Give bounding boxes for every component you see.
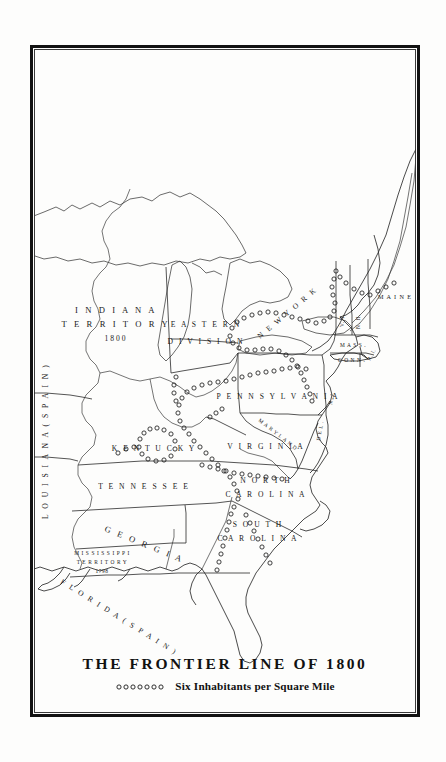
great-lakes-group xyxy=(34,192,352,361)
label-pennsylvania: P E N N S Y L V A N I A xyxy=(217,392,340,401)
boundary-eastern-division xyxy=(171,353,238,373)
label-connecticut: C O N N . xyxy=(338,357,365,363)
boundary-new-york-north xyxy=(322,261,336,355)
label-south-carolina-line2: C A R O L I N A xyxy=(218,534,299,543)
boundary-pennsylvania-south xyxy=(240,413,322,415)
outer-banks xyxy=(300,501,330,531)
label-virginia: V I R G I N I A xyxy=(227,442,304,451)
label-mississippi-territory-year: 1798 xyxy=(95,568,108,574)
boundary-pennsylvania-east xyxy=(322,355,326,415)
label-south-carolina-line1: S O U T H xyxy=(233,520,284,529)
label-florida: F L O R I D A ( S P A I N ) xyxy=(59,577,179,657)
label-rhode-island: R. I. xyxy=(366,348,377,362)
label-delaware: D E L . xyxy=(315,421,324,442)
florida-gulf-coast xyxy=(190,569,202,605)
figure-legend: Six Inhabitants per Square Mile xyxy=(34,680,416,692)
boundary-kentucky-tennessee xyxy=(78,461,194,465)
label-eastern-division-line2: D I V I S I O N xyxy=(168,337,245,346)
label-new-jersey: N. J. xyxy=(327,391,336,405)
potomac-river xyxy=(240,449,290,479)
label-eastern-division-line1: E A S T E R N xyxy=(171,320,241,329)
mississippi-river-group xyxy=(72,189,290,569)
lake-erie xyxy=(238,335,312,355)
boundary-georgia-west xyxy=(185,505,186,543)
label-massachusetts: M A S S . xyxy=(340,342,366,348)
figure-title: THE FRONTIER LINE OF 1800 xyxy=(34,655,416,673)
label-north-carolina-line1: N O R T H xyxy=(240,476,291,485)
label-kentucky: K E N T U C K Y xyxy=(112,444,197,453)
map-figure: L O U I S I A N A ( S P A I N ) I N D I … xyxy=(0,0,446,762)
ohio-river xyxy=(100,353,238,397)
boundary-tennessee-south xyxy=(72,501,232,511)
legend-circle-chain-icon xyxy=(115,681,171,691)
label-vermont: V. T. xyxy=(339,314,345,327)
st-lawrence-river-south xyxy=(350,173,412,331)
label-indiana-territory-line1: I N D I A N A xyxy=(75,305,157,315)
label-indiana-territory-line2: T E R R I T O R Y xyxy=(62,319,171,329)
boundary-kentucky-virginia xyxy=(206,417,246,435)
savannah-river xyxy=(202,497,232,569)
label-north-carolina-line2: C A R O L I N A xyxy=(226,490,307,499)
boundary-vermont-newhampshire xyxy=(350,265,352,335)
map-canvas: L O U I S I A N A ( S P A I N ) I N D I … xyxy=(34,49,416,713)
label-mississippi-territory-line1: M I S S I S S I P P I xyxy=(74,550,130,556)
label-new-hampshire: N. H. xyxy=(355,314,361,329)
gaspe-coast xyxy=(312,149,416,351)
label-maine: M A I N E xyxy=(378,293,412,300)
lake-superior xyxy=(34,192,246,266)
label-indiana-territory-year: 1800 xyxy=(104,334,127,343)
mississippi-river xyxy=(72,189,130,569)
lake-michigan xyxy=(158,261,192,361)
legend-label: Six Inhabitants per Square Mile xyxy=(175,680,334,692)
label-louisiana: L O U I S I A N A ( S P A I N ) xyxy=(41,363,50,519)
label-tennessee: T E N N E S S E E xyxy=(98,482,190,491)
figure-caption: THE FRONTIER LINE OF 1800 Six Inhabitant… xyxy=(34,655,416,692)
boundary-pennsylvania-west xyxy=(238,353,240,413)
mackinac-strait xyxy=(192,263,222,275)
label-mississippi-territory-line2: T E R R I T O R Y xyxy=(77,559,128,565)
canada-st-lawrence-group xyxy=(312,149,416,351)
label-new-york: N E W Y O R K xyxy=(256,285,320,340)
